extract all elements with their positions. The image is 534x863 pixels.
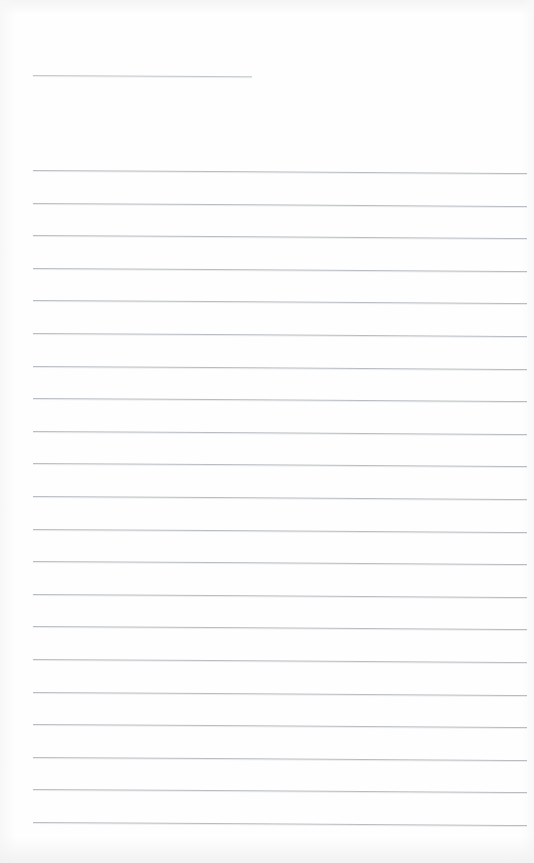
ruled-line [33,268,527,272]
ruled-line [33,333,527,337]
ruled-line [33,203,527,207]
ruled-line [33,692,527,696]
ruled-line [33,300,527,304]
ruled-line [33,529,527,533]
ruled-line [33,626,527,630]
ruled-line [33,822,527,826]
ruled-line [33,431,527,435]
scanned-page [0,0,534,863]
ruled-line [33,366,527,370]
ruled-line [33,235,527,239]
ruled-line [33,757,527,761]
scan-edge-shadow-top [0,0,534,14]
scan-edge-shadow-bottom [0,837,534,863]
ruled-line [33,594,527,598]
scan-edge-shadow-left [0,0,16,863]
ruled-line [33,463,527,467]
header-name-rule [33,75,252,77]
ruled-line [33,659,527,663]
ruled-line [33,398,527,402]
ruled-line [33,496,527,500]
ruled-line [33,789,527,793]
ruled-line [33,561,527,565]
scan-edge-shadow-right [522,0,534,863]
ruled-line [33,170,527,174]
ruled-line [33,724,527,728]
